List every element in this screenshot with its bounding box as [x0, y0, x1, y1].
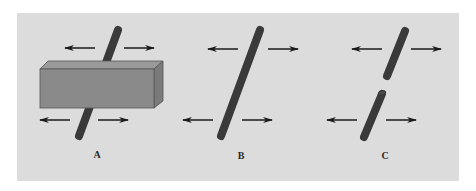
box-top-face — [40, 61, 163, 69]
box-side-face — [154, 61, 163, 108]
panel-label-a: A — [93, 149, 101, 160]
box-front-face — [40, 69, 154, 108]
occluding-box — [40, 61, 163, 108]
panel-label-b: B — [238, 150, 245, 161]
panel-label-c: C — [381, 150, 388, 161]
occlusion-diagram: A B C — [0, 0, 476, 191]
